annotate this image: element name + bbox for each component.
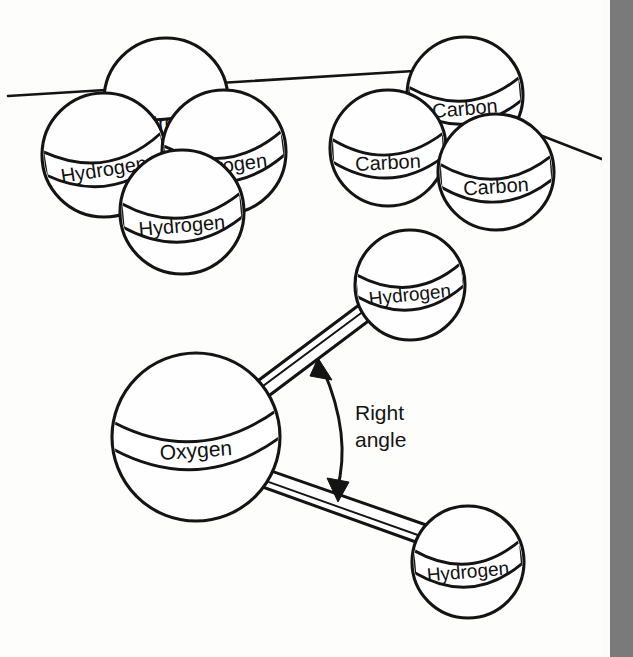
hydrogen-atom-cluster: Hydrogen Hydrogen (42, 38, 287, 274)
atom-label: Carbon (462, 173, 529, 200)
right-angle-label-line1: Right (355, 401, 404, 424)
hydrogen-sphere-lower: Hydrogen (412, 506, 524, 618)
figure-page: Hydrogen Hydrogen (0, 0, 633, 657)
hydrogen-sphere-front: Hydrogen (120, 150, 244, 274)
carbon-sphere-left: Carbon (330, 90, 446, 206)
right-angle-label-line2: angle (355, 428, 406, 451)
page-gutter (602, 0, 610, 657)
carbon-atom-cluster: Carbon Carbon (330, 37, 554, 230)
molecular-diagram-canvas: Hydrogen Hydrogen (0, 0, 633, 657)
water-molecule-model: Oxygen Hydrogen (111, 230, 524, 618)
atom-label: Carbon (355, 150, 422, 175)
angle-arc (323, 369, 342, 490)
bond-rod-edge (247, 302, 376, 398)
hydrogen-sphere-upper: Hydrogen (355, 230, 467, 340)
right-angle-annotation: Right angle (310, 358, 406, 502)
oxygen-sphere: Oxygen (111, 353, 282, 521)
carbon-sphere-right: Carbon (438, 114, 554, 230)
page-edge-shadow-strip (610, 0, 633, 657)
